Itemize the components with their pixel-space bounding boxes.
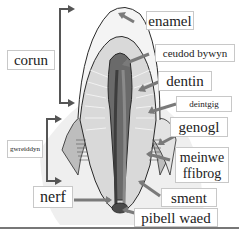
label-jawbone: genogl xyxy=(170,117,228,137)
label-root: gwreiddyn xyxy=(7,140,43,158)
label-enamel: enamel xyxy=(146,11,194,30)
crown-bracket xyxy=(60,8,70,104)
crown-bracket-arrow-bottom xyxy=(68,99,75,107)
label-crown: corun xyxy=(7,50,55,70)
label-blood-vessel: pibell waed xyxy=(134,208,218,227)
bottom-divider xyxy=(0,227,239,229)
label-dentin: dentin xyxy=(158,71,212,91)
label-fibrous-tissue-line1: meinwe xyxy=(176,150,228,166)
label-fibrous-tissue-line2: ffibrog xyxy=(176,166,228,182)
label-nerve: nerf xyxy=(33,186,73,208)
tooth-diagram: enamel ceudod bywyn dentin deintgig coru… xyxy=(0,0,239,233)
label-fibrous-tissue: meinwe ffibrog xyxy=(175,147,229,183)
label-cementum: sment xyxy=(161,188,217,207)
crown-bracket-arrow-top xyxy=(68,5,75,13)
label-pulp-cavity: ceudod bywyn xyxy=(155,44,235,62)
label-gum: deintgig xyxy=(176,96,232,112)
root-bracket-arrow-top xyxy=(55,115,62,123)
